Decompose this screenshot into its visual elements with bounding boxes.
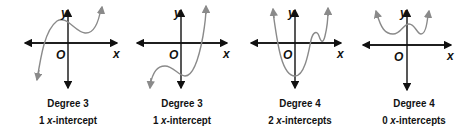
intercept-label: 0 x-intercepts [364, 113, 464, 127]
origin-label: O [169, 48, 179, 62]
polynomial-graph-degree4-a: y x O [241, 0, 359, 96]
intercept-label: 1 x-intercept [18, 113, 118, 127]
x-axis-label: x [222, 47, 231, 61]
x-axis-label: x [112, 47, 121, 61]
origin-label: O [56, 48, 66, 62]
y-axis-label: y [60, 6, 69, 20]
y-axis-label: y [173, 6, 182, 20]
intercept-label: 2 x-intercepts [250, 113, 350, 127]
polynomial-graph-degree3-b: y x O [123, 0, 241, 96]
degree-label: Degree 3 [18, 96, 118, 110]
degree-label: Degree 3 [132, 96, 232, 110]
graph-panel-4: y x O Degree 4 0 x-intercepts [355, 0, 473, 135]
y-axis-label: y [287, 6, 296, 20]
polynomial-graph-degree3-a: y x O [9, 0, 127, 96]
degree-label: Degree 4 [250, 96, 350, 110]
graph-panel-3: y x O Degree 4 2 x-intercepts [241, 0, 359, 135]
curve [37, 8, 101, 80]
origin-label: O [283, 48, 293, 62]
graph-panel-1: y x O Degree 3 1 x-intercept [9, 0, 127, 135]
x-axis-label: x [446, 49, 455, 63]
intercept-label: 1 x-intercept [132, 113, 232, 127]
y-axis-label: y [399, 6, 408, 20]
graph-panel-2: y x O Degree 3 1 x-intercept [123, 0, 241, 135]
polynomial-graph-degree4-b: y x O [355, 0, 473, 96]
x-axis-label: x [336, 47, 345, 61]
origin-label: O [394, 50, 404, 64]
degree-label: Degree 4 [364, 96, 464, 110]
